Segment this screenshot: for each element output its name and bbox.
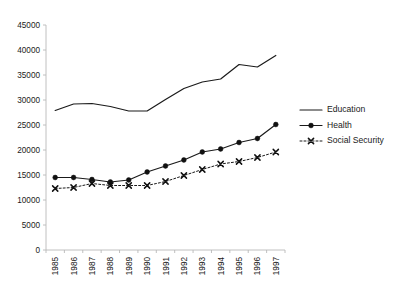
- series-health: [53, 122, 278, 184]
- series-social-security: [53, 149, 279, 191]
- y-tick-label: 25000: [17, 121, 40, 130]
- series-line: [55, 152, 276, 189]
- chart-legend: EducationHealthSocial Security: [300, 104, 385, 145]
- series-layer: [53, 56, 279, 192]
- series-line: [55, 56, 276, 112]
- data-point-marker: [237, 140, 242, 145]
- legend-item-social-security[interactable]: Social Security: [300, 135, 385, 145]
- data-point-marker: [200, 150, 205, 155]
- data-point-marker: [126, 178, 131, 183]
- x-tick-label: 1995: [235, 257, 244, 276]
- x-axis-tick-labels: 1985198619871988198919901991199219931994…: [51, 257, 281, 276]
- legend-marker: [309, 123, 314, 128]
- x-tick-label: 1987: [88, 257, 97, 276]
- y-tick-label: 35000: [17, 71, 40, 80]
- y-tick-label: 40000: [17, 46, 40, 55]
- data-point-marker: [163, 164, 168, 169]
- data-point-marker: [273, 122, 278, 127]
- data-point-marker: [181, 173, 186, 178]
- legend-item-health[interactable]: Health: [300, 120, 352, 130]
- y-tick-label: 45000: [17, 21, 40, 30]
- data-point-marker: [200, 167, 205, 172]
- y-tick-label: 15000: [17, 171, 40, 180]
- y-tick-label: 10000: [17, 196, 40, 205]
- data-point-marker: [181, 158, 186, 163]
- x-tick-label: 1988: [106, 257, 115, 276]
- data-point-marker: [218, 147, 223, 152]
- data-point-marker: [218, 161, 223, 166]
- y-tick-label: 0: [35, 246, 40, 255]
- x-tick-label: 1993: [198, 257, 207, 276]
- series-line: [55, 125, 276, 183]
- x-tick-label: 1997: [272, 257, 281, 276]
- chart-canvas: 0500010000150002000025000300003500040000…: [0, 0, 394, 288]
- data-point-marker: [255, 136, 260, 141]
- y-tick-label: 5000: [22, 221, 41, 230]
- x-tick-label: 1992: [180, 257, 189, 276]
- legend-label: Social Security: [327, 135, 385, 145]
- legend-item-education[interactable]: Education: [300, 104, 365, 114]
- x-tick-label: 1990: [143, 257, 152, 276]
- x-tick-label: 1994: [217, 257, 226, 276]
- legend-label: Education: [327, 104, 365, 114]
- x-tick-label: 1985: [51, 257, 60, 276]
- y-axis-tick-labels: 0500010000150002000025000300003500040000…: [17, 21, 40, 255]
- data-point-marker: [273, 149, 278, 154]
- y-tick-label: 30000: [17, 96, 40, 105]
- x-tick-label: 1996: [253, 257, 262, 276]
- x-tick-label: 1989: [125, 257, 134, 276]
- line-chart: 0500010000150002000025000300003500040000…: [0, 0, 394, 288]
- x-tick-label: 1991: [162, 257, 171, 276]
- data-point-marker: [53, 175, 58, 180]
- data-point-marker: [145, 170, 150, 175]
- x-tick-label: 1986: [70, 257, 79, 276]
- series-education: [55, 56, 276, 112]
- data-point-marker: [71, 175, 76, 180]
- y-tick-label: 20000: [17, 146, 40, 155]
- legend-label: Health: [327, 120, 352, 130]
